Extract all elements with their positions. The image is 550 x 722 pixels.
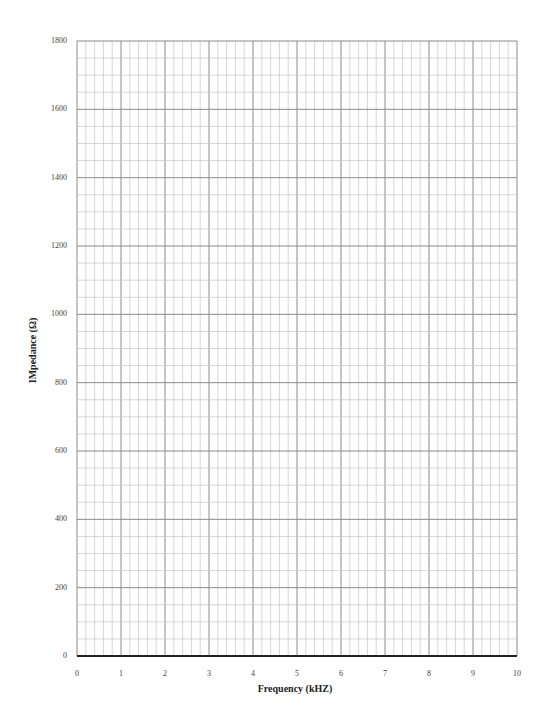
y-tick-label: 0 [37,651,67,660]
x-tick-label: 6 [331,669,351,678]
x-tick-label: 3 [199,669,219,678]
y-tick-label: 1200 [37,241,67,250]
graph-paper-grid [0,0,550,722]
x-tick-label: 2 [155,669,175,678]
y-axis-label: IMpedance (Ω) [27,291,38,411]
y-tick-label: 400 [37,514,67,523]
x-tick-label: 1 [111,669,131,678]
x-tick-label: 0 [67,669,87,678]
y-tick-label: 1400 [37,173,67,182]
y-tick-label: 800 [37,378,67,387]
x-tick-label: 8 [419,669,439,678]
x-tick-label: 7 [375,669,395,678]
y-tick-label: 200 [37,583,67,592]
y-tick-label: 1600 [37,104,67,113]
x-tick-label: 9 [463,669,483,678]
x-tick-label: 5 [287,669,307,678]
y-tick-label: 1800 [37,36,67,45]
x-tick-label: 4 [243,669,263,678]
y-tick-label: 1000 [37,309,67,318]
x-tick-label: 10 [507,669,527,678]
x-axis-label: Frequency (kHZ) [230,683,360,694]
y-tick-label: 600 [37,446,67,455]
